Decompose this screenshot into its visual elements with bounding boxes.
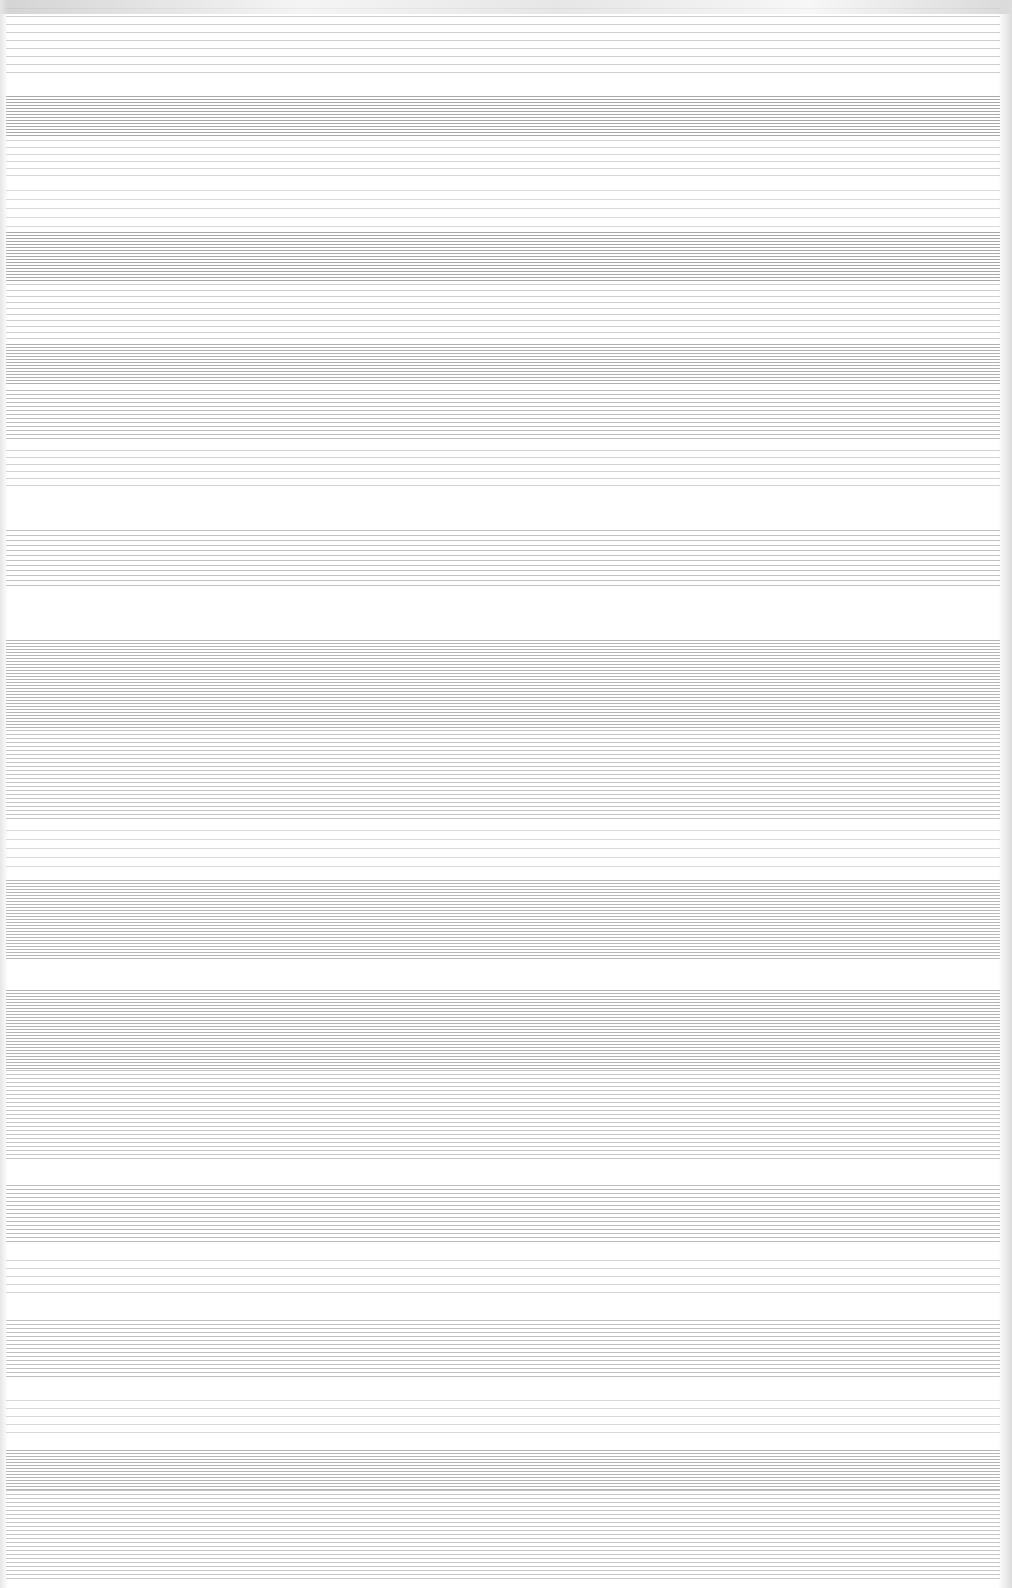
stripe-band xyxy=(6,140,1000,180)
stripe-band xyxy=(6,530,1000,590)
stripe-band xyxy=(6,1490,1000,1580)
stripe-band xyxy=(6,1185,1000,1245)
stripe-band xyxy=(6,1400,1000,1440)
right-edge-shadow xyxy=(998,0,1012,1588)
stripe-band xyxy=(6,390,1000,440)
stripe-band xyxy=(6,990,1000,1070)
stripe-band xyxy=(6,1070,1000,1160)
stripe-band xyxy=(6,830,1000,870)
stripe-band xyxy=(6,730,1000,820)
left-edge-shadow xyxy=(0,0,8,1588)
stripe-band xyxy=(6,1260,1000,1300)
stripe-band xyxy=(6,1450,1000,1490)
striped-texture-page xyxy=(0,0,1012,1588)
stripe-band xyxy=(6,284,1000,344)
stripe-band xyxy=(6,96,1000,136)
stripe-band xyxy=(6,880,1000,960)
stripe-band xyxy=(6,8,1000,78)
stripe-band xyxy=(6,190,1000,230)
top-edge-shadow xyxy=(0,0,1012,14)
stripe-band xyxy=(6,232,1000,282)
stripe-band xyxy=(6,450,1000,490)
stripe-band xyxy=(6,344,1000,384)
stripe-band xyxy=(6,640,1000,730)
stripe-band xyxy=(6,1320,1000,1380)
